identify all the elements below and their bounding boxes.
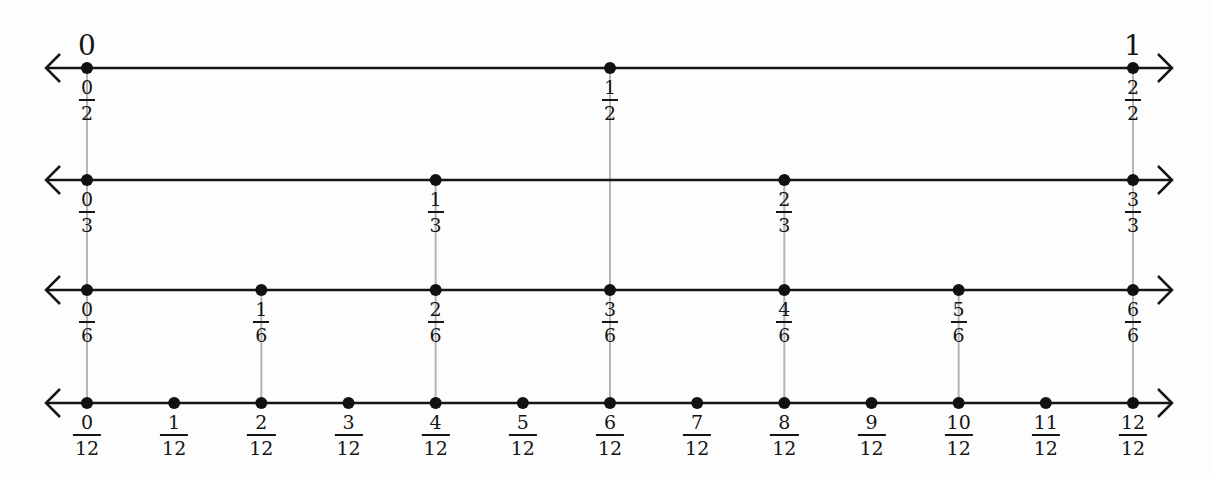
point-5-6 — [953, 284, 965, 296]
fraction-label-2-6: 26 — [428, 300, 444, 345]
numerator: 1 — [602, 78, 618, 97]
numerator: 3 — [334, 413, 362, 432]
denominator: 6 — [253, 326, 269, 345]
fraction-label-1-3: 13 — [428, 190, 444, 235]
fraction-bar — [1125, 321, 1141, 323]
fraction-bar — [428, 321, 444, 323]
numerator: 0 — [79, 190, 95, 209]
denominator: 12 — [857, 439, 885, 458]
point-9-12 — [866, 397, 878, 409]
numerator: 7 — [683, 413, 711, 432]
fraction-bar — [857, 434, 885, 436]
fraction-bar — [79, 99, 95, 101]
numerator: 4 — [422, 413, 450, 432]
denominator: 12 — [683, 439, 711, 458]
fraction-bar — [334, 434, 362, 436]
point-0-12 — [81, 397, 93, 409]
denominator: 2 — [79, 104, 95, 123]
fraction-label-0-12: 012 — [73, 413, 101, 458]
numerator: 3 — [602, 300, 618, 319]
numerator: 11 — [1032, 413, 1060, 432]
denominator: 6 — [1125, 326, 1141, 345]
numerator: 4 — [776, 300, 792, 319]
denominator: 12 — [1119, 439, 1147, 458]
numerator: 1 — [428, 190, 444, 209]
fraction-bar — [1119, 434, 1147, 436]
point-1-12 — [168, 397, 180, 409]
point-3-6 — [604, 284, 616, 296]
number-lines-canvas — [0, 0, 1213, 477]
fraction-bar — [79, 211, 95, 213]
fraction-label-6-12: 612 — [596, 413, 624, 458]
point-6-6 — [1127, 284, 1139, 296]
one-label: 1 — [1124, 32, 1142, 60]
point-1-3 — [430, 174, 442, 186]
numerator: 0 — [79, 78, 95, 97]
denominator: 2 — [1125, 104, 1141, 123]
fraction-bar — [770, 434, 798, 436]
fraction-label-0-3: 03 — [79, 190, 95, 235]
point-4-6 — [778, 284, 790, 296]
fraction-label-11-12: 1112 — [1032, 413, 1060, 458]
point-1-2 — [604, 62, 616, 74]
point-4-12 — [430, 397, 442, 409]
denominator: 12 — [1032, 439, 1060, 458]
zero-label: 0 — [78, 32, 96, 60]
fraction-label-2-12: 212 — [247, 413, 275, 458]
fraction-label-1-6: 16 — [253, 300, 269, 345]
denominator: 12 — [945, 439, 973, 458]
point-7-12 — [691, 397, 703, 409]
numerator: 2 — [776, 190, 792, 209]
fraction-bar — [945, 434, 973, 436]
fraction-bar — [160, 434, 188, 436]
fraction-bar — [1125, 211, 1141, 213]
numerator: 1 — [160, 413, 188, 432]
fraction-bar — [951, 321, 967, 323]
point-3-3 — [1127, 174, 1139, 186]
denominator: 2 — [602, 104, 618, 123]
numerator: 8 — [770, 413, 798, 432]
numerator: 9 — [857, 413, 885, 432]
denominator: 12 — [73, 439, 101, 458]
numerator: 5 — [951, 300, 967, 319]
numerator: 3 — [1125, 190, 1141, 209]
denominator: 3 — [79, 216, 95, 235]
fraction-label-5-6: 56 — [951, 300, 967, 345]
denominator: 6 — [428, 326, 444, 345]
numerator: 2 — [1125, 78, 1141, 97]
fraction-label-1-12: 112 — [160, 413, 188, 458]
denominator: 12 — [247, 439, 275, 458]
fraction-bar — [422, 434, 450, 436]
fraction-label-10-12: 1012 — [945, 413, 973, 458]
point-6-12 — [604, 397, 616, 409]
fraction-label-0-6: 06 — [79, 300, 95, 345]
fraction-label-1-2: 12 — [602, 78, 618, 123]
fraction-label-2-2: 22 — [1125, 78, 1141, 123]
fraction-label-6-6: 66 — [1125, 300, 1141, 345]
numerator: 6 — [596, 413, 624, 432]
point-12-12 — [1127, 397, 1139, 409]
point-2-6 — [430, 284, 442, 296]
fraction-label-2-3: 23 — [776, 190, 792, 235]
numerator: 12 — [1119, 413, 1147, 432]
fraction-bar — [596, 434, 624, 436]
point-2-2 — [1127, 62, 1139, 74]
denominator: 6 — [951, 326, 967, 345]
fraction-bar — [776, 321, 792, 323]
numerator: 5 — [509, 413, 537, 432]
point-2-3 — [778, 174, 790, 186]
fraction-bar — [1125, 99, 1141, 101]
point-2-12 — [255, 397, 267, 409]
denominator: 12 — [509, 439, 537, 458]
denominator: 12 — [334, 439, 362, 458]
fraction-label-3-6: 36 — [602, 300, 618, 345]
numerator: 2 — [247, 413, 275, 432]
point-11-12 — [1040, 397, 1052, 409]
fraction-label-12-12: 1212 — [1119, 413, 1147, 458]
fraction-label-7-12: 712 — [683, 413, 711, 458]
denominator: 6 — [79, 326, 95, 345]
fraction-bar — [602, 99, 618, 101]
fraction-label-3-3: 33 — [1125, 190, 1141, 235]
fraction-bar — [428, 211, 444, 213]
fraction-bar — [1032, 434, 1060, 436]
